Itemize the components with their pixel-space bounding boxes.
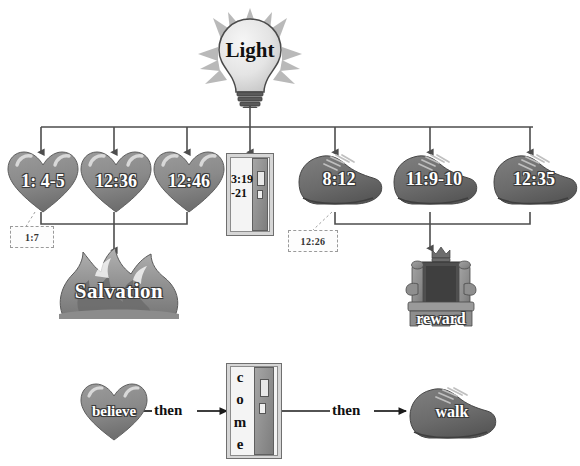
- tag-12-26-label: 12:26: [301, 236, 326, 247]
- shoe-node-3[interactable]: 12:35: [488, 148, 580, 210]
- door-label-line2: -21: [231, 187, 247, 200]
- heart-node-1[interactable]: 1: 4-5: [5, 148, 81, 214]
- come-letter-3: e: [237, 436, 244, 453]
- tag-12-26[interactable]: 12:26: [288, 230, 338, 252]
- door-knob: [257, 190, 263, 199]
- heart-icon: [78, 148, 154, 214]
- shoe-node-1[interactable]: 8:12: [293, 148, 385, 210]
- shoe-icon: [404, 380, 500, 444]
- fire-icon: [55, 246, 183, 320]
- tag-1-7[interactable]: 1:7: [10, 226, 54, 248]
- heart-icon: [5, 148, 81, 214]
- connector-then-2: then: [330, 402, 362, 419]
- heart-icon: [78, 380, 150, 442]
- tag-1-7-label: 1:7: [25, 232, 39, 243]
- shoe-icon: [388, 148, 480, 210]
- leader-tag-12-26: [313, 212, 332, 230]
- heart-node-2[interactable]: 12:36: [78, 148, 154, 214]
- salvation-node[interactable]: Salvation: [55, 246, 183, 320]
- diagram-canvas: Light 1: 4-5 12:36 12:46 1:7: [0, 0, 580, 466]
- throne-icon: [398, 244, 484, 328]
- door-knob: [259, 403, 266, 414]
- shoe-node-2[interactable]: 11:9-10: [388, 148, 480, 210]
- flow-believe-node[interactable]: believe: [78, 380, 150, 442]
- flow-come-node[interactable]: c o m e: [226, 363, 282, 459]
- lightbulb-icon: [198, 8, 302, 108]
- reward-node[interactable]: reward: [398, 244, 484, 328]
- heart-node-3[interactable]: 12:46: [151, 148, 227, 214]
- come-letter-1: o: [236, 391, 244, 408]
- flow-walk-node[interactable]: walk: [404, 380, 500, 444]
- door-node-top[interactable]: 3:19 -21: [226, 153, 274, 236]
- shoe-icon: [488, 148, 580, 210]
- come-letter-0: c: [237, 369, 244, 386]
- door-label-line1: 3:19: [231, 173, 253, 186]
- flow-come-letters: c o m e: [232, 369, 248, 453]
- heart-icon: [151, 148, 227, 214]
- merge-bus-shoes: [335, 212, 530, 224]
- come-letter-2: m: [234, 414, 247, 431]
- door-window: [260, 379, 269, 397]
- door-window: [257, 171, 265, 186]
- shoe-icon: [293, 148, 385, 210]
- connector-then-1: then: [152, 402, 184, 419]
- light-node[interactable]: Light: [198, 8, 302, 108]
